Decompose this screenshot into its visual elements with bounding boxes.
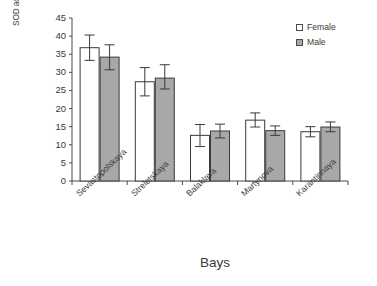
sod-activity-bar-chart: SOD activity, x100 arbitrary units/ml er… (0, 0, 377, 286)
y-axis-tick-label: 40 (44, 31, 66, 41)
y-axis-tick-label: 0 (44, 176, 66, 186)
bar (80, 48, 99, 181)
legend-item-female: Female (296, 22, 336, 32)
legend-label-female: Female (307, 22, 336, 32)
y-axis-tick-label: 45 (44, 13, 66, 23)
open-square-icon (296, 24, 303, 31)
y-axis-tick-label: 5 (44, 158, 66, 168)
bar (135, 82, 154, 181)
filled-square-icon (296, 39, 303, 46)
y-axis-tick-label: 25 (44, 85, 66, 95)
y-axis-tick-label: 30 (44, 67, 66, 77)
legend-item-male: Male (296, 37, 336, 47)
legend-label-male: Male (307, 37, 326, 47)
y-axis-tick-label: 10 (44, 140, 66, 150)
legend: Female Male (296, 22, 336, 52)
x-axis-title: Bays (150, 255, 280, 270)
y-axis-tick-label: 20 (44, 104, 66, 114)
y-axis-tick-label: 35 (44, 49, 66, 59)
y-axis-tick-label: 15 (44, 122, 66, 132)
